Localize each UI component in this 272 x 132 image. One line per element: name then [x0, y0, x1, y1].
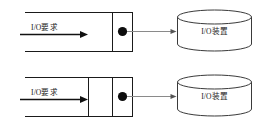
diagram-canvas: I/O要求 I/O装置 [0, 0, 272, 132]
request-label-upper: I/O要求 [31, 22, 58, 32]
cylinder-top-ellipse-upper [178, 10, 252, 24]
device-label-upper: I/O装置 [201, 26, 228, 36]
queue-box-lower [25, 78, 133, 117]
dispatch-arrow-head-lower [171, 94, 177, 99]
queue-token-upper [118, 27, 127, 36]
queue-row-upper: I/O要求 I/O装置 [20, 10, 252, 52]
queue-token-lower [118, 92, 127, 101]
cylinder-top-ellipse-lower [178, 75, 252, 89]
request-arrow-head-upper [80, 31, 88, 38]
queue-box-upper [25, 13, 133, 52]
dispatch-arrow-upper [127, 29, 177, 34]
queue-row-lower: I/O要求 I/O装置 [20, 75, 252, 117]
dispatch-arrow-head-upper [171, 29, 177, 34]
io-queue-diagram: I/O要求 I/O装置 [0, 0, 272, 132]
request-label-lower: I/O要求 [31, 87, 58, 97]
dispatch-arrow-lower [127, 94, 177, 99]
request-arrow-head-lower [80, 96, 88, 103]
device-label-lower: I/O装置 [201, 91, 228, 101]
